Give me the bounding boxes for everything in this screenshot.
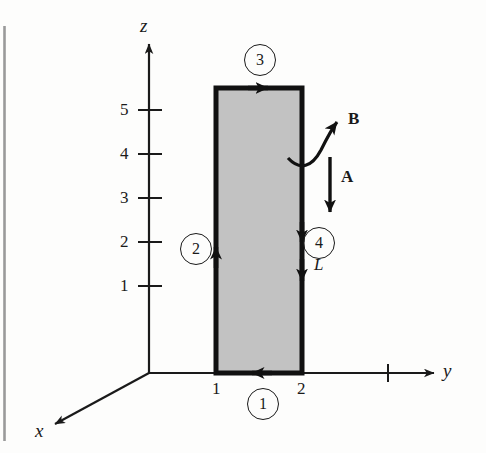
segment-marker-4: 4 (303, 227, 335, 259)
area-vector-label: A (341, 168, 353, 185)
segment-marker-1: 1 (247, 388, 279, 420)
physics-figure: z y x 5 4 3 2 1 1 2 B A L 3 2 4 1 (0, 0, 486, 453)
axis-z (138, 44, 162, 373)
axis-label-y: y (443, 361, 451, 380)
z-tick-label-2: 2 (120, 233, 129, 250)
axis-x (55, 373, 149, 424)
field-vector-label: B (348, 110, 359, 127)
z-tick-label-3: 3 (120, 189, 129, 206)
z-tick-label-4: 4 (120, 145, 129, 162)
y-tick-label-2: 2 (297, 380, 306, 397)
axis-label-x: x (35, 421, 43, 440)
axis-label-z: z (140, 16, 147, 35)
loop-area (216, 88, 302, 373)
z-tick-label-1: 1 (120, 277, 129, 294)
y-tick-label-1: 1 (212, 380, 221, 397)
segment-marker-3: 3 (244, 44, 276, 76)
segment-marker-2: 2 (180, 233, 212, 265)
z-tick-label-5: 5 (120, 101, 129, 118)
figure-canvas (0, 0, 486, 453)
